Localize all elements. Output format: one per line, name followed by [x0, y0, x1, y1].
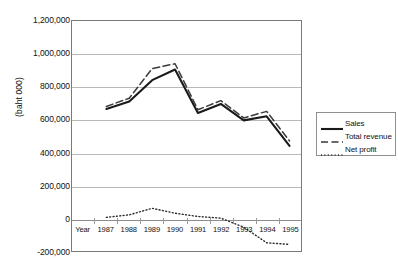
series-lines — [72, 21, 301, 251]
x-tick-label: 1991 — [190, 225, 206, 234]
x-tick-label: 1989 — [144, 225, 160, 234]
y-tick-label: 1,200,000 — [8, 15, 70, 25]
y-tick-label: 600,000 — [8, 114, 70, 124]
y-tick-label: 400,000 — [8, 148, 70, 158]
y-tick-label: 800,000 — [8, 81, 70, 91]
series-line — [106, 64, 289, 141]
chart-container: (baht 000) 1,200,0001,000,000800,000600,… — [0, 0, 398, 262]
x-tick-label: 1994 — [259, 225, 275, 234]
x-tick-mark — [94, 218, 95, 224]
y-tick-label: -200,000 — [8, 247, 70, 257]
legend-swatch-dashed — [321, 132, 343, 140]
x-tick-mark — [187, 218, 188, 224]
y-tick-label: 1,000,000 — [8, 48, 70, 58]
series-line — [106, 69, 289, 145]
x-tick-mark — [210, 218, 211, 224]
legend-swatch-solid — [321, 119, 343, 127]
y-axis-tick-labels: 1,200,0001,000,000800,000600,000400,0002… — [8, 0, 70, 262]
x-tick-mark — [233, 218, 234, 224]
legend-item: Sales — [321, 117, 392, 129]
x-tick-mark — [256, 218, 257, 224]
legend-label: Sales — [345, 119, 365, 128]
x-tick-mark — [117, 218, 118, 224]
legend-label: Net profit — [345, 145, 376, 154]
x-tick-label: 1993 — [236, 225, 252, 234]
x-tick-label: 1992 — [213, 225, 229, 234]
y-tick-label: 0 — [8, 214, 70, 224]
y-tick-label: 200,000 — [8, 181, 70, 191]
x-tick-label: 1987 — [97, 225, 113, 234]
x-tick-label: 1990 — [167, 225, 183, 234]
legend-swatch-dotted — [321, 145, 343, 153]
x-tick-label: 1995 — [282, 225, 298, 234]
x-axis-tick-labels: Year198719881989199019911992199319941995 — [71, 224, 302, 240]
legend-item: Total revenue — [321, 130, 392, 142]
x-tick-mark — [163, 218, 164, 224]
legend-label: Total revenue — [345, 132, 392, 141]
x-tick-label: 1988 — [121, 225, 137, 234]
x-tick-mark — [140, 218, 141, 224]
x-axis-name: Year — [75, 225, 90, 234]
legend: SalesTotal revenueNet profit — [316, 112, 396, 156]
legend-item: Net profit — [321, 143, 392, 155]
x-tick-mark — [279, 218, 280, 224]
